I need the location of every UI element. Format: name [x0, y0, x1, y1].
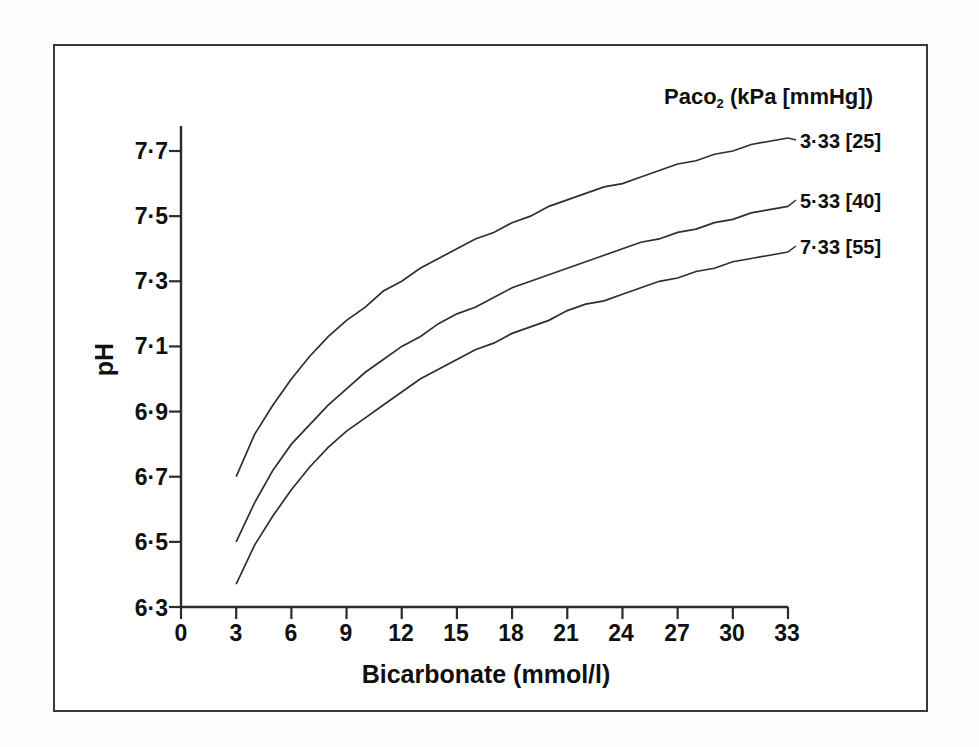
legend-title-units: (kPa [mmHg])	[724, 84, 873, 109]
legend-title-subscript: 2	[717, 96, 724, 111]
curve-2	[236, 206, 788, 541]
y-tick-label: 7·5	[110, 203, 168, 230]
x-tick-label: 18	[491, 620, 531, 647]
legend-leader-3	[788, 246, 796, 252]
x-tick-label: 9	[326, 620, 366, 647]
x-tick-label: 24	[601, 620, 641, 647]
y-tick-label: 7·3	[110, 268, 168, 295]
legend-leader-2	[788, 200, 796, 206]
x-tick-label: 27	[657, 620, 697, 647]
x-axis-ticks	[181, 607, 788, 619]
legend-entry-2: 5·33 [40]	[800, 190, 881, 213]
x-tick-label: 33	[767, 620, 807, 647]
chart-canvas	[0, 0, 979, 747]
x-axis-title: Bicarbonate (mmol/l)	[181, 660, 791, 689]
y-tick-label: 6·3	[110, 595, 168, 622]
x-tick-label: 0	[161, 620, 201, 647]
y-tick-label: 7·7	[110, 138, 168, 165]
x-tick-label: 12	[381, 620, 421, 647]
curve-3	[236, 252, 788, 584]
y-tick-label: 6·5	[110, 529, 168, 556]
y-tick-label: 7·1	[110, 333, 168, 360]
y-tick-label: 6·9	[110, 399, 168, 426]
x-tick-label: 6	[271, 620, 311, 647]
x-tick-label: 15	[436, 620, 476, 647]
x-tick-label: 3	[216, 620, 256, 647]
legend-entry-1: 3·33 [25]	[800, 130, 881, 153]
legend-leader-1	[788, 138, 796, 140]
figure-page: 7·7 7·5 7·3 7·1 6·9 6·7 6·5 6·3 0 3 6 9 …	[0, 0, 979, 747]
axis-lines	[181, 126, 788, 607]
legend-title: Paco2 (kPa [mmHg])	[664, 84, 873, 110]
curve-1	[236, 138, 788, 477]
legend-title-main: Paco	[664, 84, 717, 109]
y-axis-title: pH	[90, 338, 119, 382]
y-axis-ticks	[169, 151, 181, 607]
legend-entry-3: 7·33 [55]	[800, 236, 881, 259]
data-curves	[236, 138, 788, 584]
y-tick-label: 6·7	[110, 464, 168, 491]
x-tick-label: 30	[712, 620, 752, 647]
legend-leader-lines	[788, 138, 796, 252]
x-tick-label: 21	[546, 620, 586, 647]
